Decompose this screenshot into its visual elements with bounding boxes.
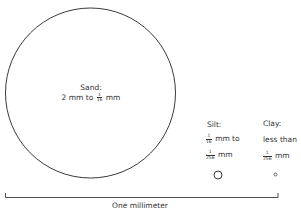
silt-range-to: 1 256 mm	[205, 150, 233, 160]
clay-frac-den: 256	[263, 157, 272, 162]
clay-line1: less than	[263, 136, 297, 144]
silt-to-suffix: mm	[218, 150, 233, 159]
sand-range: 2 mm to 1 16 mm	[58, 93, 124, 103]
silt-grain-circle	[214, 171, 222, 179]
sand-range-prefix: 2 mm to	[62, 93, 94, 102]
silt-range-from: 1 16 mm to	[205, 134, 240, 144]
clay-unit: mm	[275, 151, 290, 160]
grain-size-diagram	[0, 0, 301, 213]
clay-title: Clay:	[263, 120, 281, 128]
sand-label: Sand: 2 mm to 1 16 mm	[58, 84, 124, 103]
sand-frac-den: 16	[97, 98, 103, 103]
silt-from-suffix: mm to	[215, 134, 240, 143]
sand-fraction: 1 16	[97, 93, 103, 103]
scale-bar-label: One millimeter	[90, 202, 190, 210]
scale-bar	[6, 193, 279, 198]
silt-from-den: 16	[206, 140, 212, 145]
sand-title: Sand:	[58, 84, 124, 92]
sand-unit: mm	[106, 93, 121, 102]
clay-fraction: 1 256	[263, 151, 272, 161]
clay-grain-circle	[274, 173, 277, 176]
clay-range: 1 256 mm	[262, 151, 290, 161]
silt-title: Silt:	[207, 121, 221, 129]
silt-from-fraction: 1 16	[206, 134, 212, 144]
silt-to-fraction: 1 256	[206, 150, 215, 160]
silt-to-den: 256	[206, 156, 215, 161]
